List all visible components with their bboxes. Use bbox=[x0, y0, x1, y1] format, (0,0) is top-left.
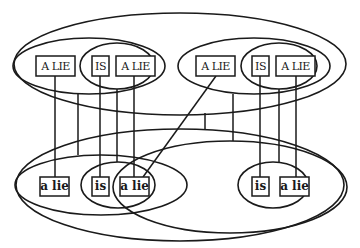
box-a-lie: A LIE bbox=[196, 56, 235, 76]
box-a-lie: A LIE bbox=[36, 56, 75, 76]
box-is: is bbox=[252, 177, 269, 196]
box-label: A LIE bbox=[200, 60, 230, 73]
top-right-boxes: A LIE IS A LIE bbox=[196, 56, 315, 76]
box-label: IS bbox=[95, 60, 106, 73]
bottom-left-boxes: a lie is a lie bbox=[40, 177, 149, 196]
diagram-canvas: A LIE IS A LIE A LIE IS A LIE a lie bbox=[0, 0, 360, 248]
connector-lines bbox=[55, 76, 296, 177]
box-label: a lie bbox=[40, 179, 69, 193]
box-a-lie: A LIE bbox=[276, 56, 315, 76]
box-label: A LIE bbox=[40, 60, 70, 73]
box-label: a lie bbox=[120, 179, 149, 193]
top-left-boxes: A LIE IS A LIE bbox=[36, 56, 155, 76]
box-label: is bbox=[95, 179, 107, 193]
box-label: A LIE bbox=[280, 60, 310, 73]
box-label: is bbox=[255, 179, 267, 193]
box-a-lie: a lie bbox=[280, 177, 309, 196]
box-label: a lie bbox=[280, 179, 309, 193]
box-label: IS bbox=[255, 60, 266, 73]
box-a-lie: a lie bbox=[40, 177, 69, 196]
bottom-right-boxes: is a lie bbox=[252, 177, 309, 196]
box-is: IS bbox=[252, 56, 269, 76]
box-a-lie: a lie bbox=[120, 177, 149, 196]
box-a-lie: A LIE bbox=[116, 56, 155, 76]
box-is: IS bbox=[92, 56, 109, 76]
box-is: is bbox=[92, 177, 109, 196]
box-label: A LIE bbox=[120, 60, 150, 73]
